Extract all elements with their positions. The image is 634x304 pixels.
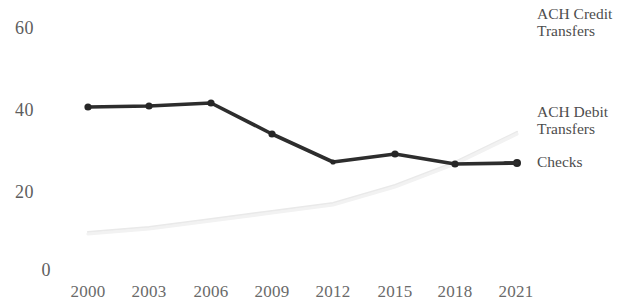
chart-container: 60 40 20 0 2000 2003 2006 2009 2012 2015… <box>0 0 634 304</box>
legend-item-ach-debit-transfers: ACH Debit Transfers <box>537 104 608 137</box>
legend-label-ach-debit-transfers-line2: Transfers <box>537 121 608 138</box>
y-axis-tick-0: 0 <box>0 261 51 279</box>
legend-label-ach-credit-transfers-line1: ACH Credit <box>537 6 612 23</box>
y-axis-tick-40: 40 <box>0 101 34 119</box>
x-axis-tick-2012: 2012 <box>315 283 350 300</box>
data-point-checks-2009 <box>268 130 275 137</box>
x-axis-tick-2018: 2018 <box>437 283 472 300</box>
x-axis-tick-2015: 2015 <box>377 283 412 300</box>
legend-label-ach-debit-transfers-line1: ACH Debit <box>537 104 608 121</box>
series-markers-checks <box>84 99 521 167</box>
data-point-checks-2018 <box>451 160 458 167</box>
x-axis-tick-2003: 2003 <box>131 283 166 300</box>
data-point-checks-2012 <box>330 159 335 164</box>
data-point-checks-2015 <box>391 150 398 157</box>
x-axis-tick-2006: 2006 <box>193 283 228 300</box>
data-point-checks-2003 <box>145 102 152 109</box>
x-axis-tick-2009: 2009 <box>254 283 289 300</box>
y-axis-tick-20: 20 <box>0 183 34 201</box>
legend-item-checks: Checks <box>537 153 583 170</box>
legend-label-checks: Checks <box>537 153 583 170</box>
x-axis-tick-2021: 2021 <box>498 283 533 300</box>
data-point-checks-2000 <box>84 103 91 110</box>
x-axis-tick-2000: 2000 <box>70 283 105 300</box>
chart-plot-area <box>0 0 634 304</box>
legend-label-ach-credit-transfers-line2: Transfers <box>537 23 612 40</box>
series-line-checks <box>88 103 517 164</box>
data-point-checks-2006 <box>207 99 214 106</box>
legend-item-ach-credit-transfers: ACH Credit Transfers <box>537 6 612 39</box>
y-axis-tick-60: 60 <box>0 19 34 37</box>
